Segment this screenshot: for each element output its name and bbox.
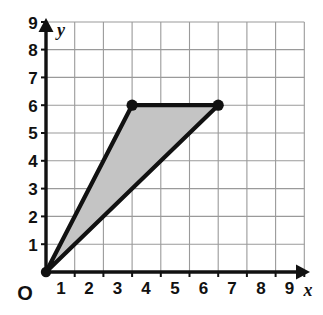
x-tick-label: 6: [199, 279, 208, 298]
x-tick-label: 2: [84, 279, 93, 298]
x-tick-label: 5: [170, 279, 179, 298]
y-axis-label: y: [55, 20, 66, 40]
x-tick-label: 7: [227, 279, 236, 298]
x-axis-label: x: [303, 280, 313, 300]
y-tick-label: 9: [28, 14, 37, 33]
y-tick-label: 2: [28, 208, 37, 227]
coordinate-plane: 1 2 3 4 5 6 7 8 9 1 2 3 4 5 6 7 8 9 y x …: [0, 0, 323, 315]
vertex-point-top-left: [127, 100, 138, 111]
y-tick-label: 5: [28, 124, 37, 143]
vertex-point-origin: [41, 267, 51, 277]
x-tick-label: 1: [56, 279, 65, 298]
vertex-point-top-right: [213, 100, 224, 111]
x-tick-label: 3: [113, 279, 122, 298]
y-tick-label: 4: [28, 152, 38, 171]
x-tick-label: 8: [256, 279, 265, 298]
origin-label: O: [17, 282, 33, 304]
coordinate-grid-figure: 1 2 3 4 5 6 7 8 9 1 2 3 4 5 6 7 8 9 y x …: [0, 0, 323, 315]
y-tick-label: 6: [28, 97, 37, 116]
x-tick-label: 4: [141, 279, 151, 298]
y-tick-label: 1: [28, 236, 37, 255]
x-tick-label: 9: [285, 279, 294, 298]
y-tick-label: 8: [28, 41, 37, 60]
y-tick-label: 7: [28, 69, 37, 88]
y-tick-label: 3: [28, 180, 37, 199]
